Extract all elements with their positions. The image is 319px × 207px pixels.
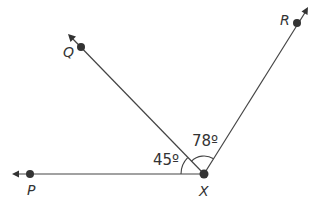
point-r — [293, 19, 301, 27]
arrow-p-icon — [12, 171, 19, 178]
label-x: X — [198, 183, 209, 199]
label-q: Q — [63, 44, 74, 60]
label-r: R — [280, 12, 290, 28]
arc-angle-pxq — [181, 158, 188, 174]
label-p: P — [27, 182, 36, 198]
label-angle-qxr: 78º — [192, 132, 218, 150]
angle-diagram: P Q R X 45º 78º — [0, 0, 319, 207]
label-angle-pxq: 45º — [153, 151, 179, 169]
ray-xr — [204, 11, 306, 174]
ray-xq — [71, 37, 204, 174]
point-x — [200, 170, 209, 179]
point-q — [77, 43, 85, 51]
point-p — [26, 170, 34, 178]
arc-angle-qxr — [191, 156, 213, 161]
